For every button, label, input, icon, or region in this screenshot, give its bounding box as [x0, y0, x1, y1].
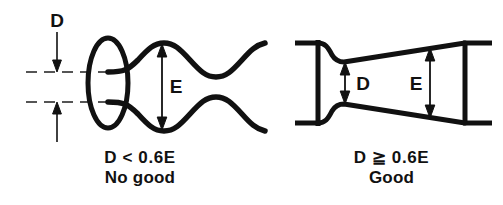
panel-no-good: D E D < 0.6E No good: [0, 0, 280, 205]
coil-left-end: [295, 40, 320, 126]
dimension-E-left: [157, 44, 167, 130]
dimension-E-right: [425, 48, 435, 118]
coil-right-end: [463, 42, 492, 124]
coil-envelope-lower: [108, 97, 265, 131]
dimension-label-E-left: E: [170, 76, 183, 97]
figure-coil-spacing: D E D < 0.6E No good: [0, 0, 503, 205]
caption-good: D ≧ 0.6E Good: [280, 148, 503, 188]
caption-condition-good: D ≧ 0.6E: [280, 148, 503, 168]
diagram-wavy-coil: D E: [0, 0, 280, 148]
cone-envelope-upper: [318, 43, 465, 62]
dimension-label-D-left: D: [50, 10, 64, 31]
lead-datum-lines: [26, 72, 120, 102]
cone-envelope-lower: [318, 104, 465, 123]
coil-envelope-upper: [108, 43, 265, 77]
diagram-tapered-cone-coil: D E: [280, 0, 503, 148]
caption-verdict-good: Good: [280, 168, 503, 188]
caption-no-good: D < 0.6E No good: [0, 148, 280, 188]
caption-verdict-no-good: No good: [0, 168, 280, 188]
panel-good: D E D ≧ 0.6E Good: [280, 0, 503, 205]
caption-condition-no-good: D < 0.6E: [0, 148, 280, 168]
dimension-D-left: [53, 32, 62, 142]
dimension-label-D-right: D: [356, 73, 370, 94]
coil-end-loop: [88, 38, 128, 128]
dimension-D-right: [340, 62, 350, 104]
dimension-label-E-right: E: [410, 73, 423, 94]
